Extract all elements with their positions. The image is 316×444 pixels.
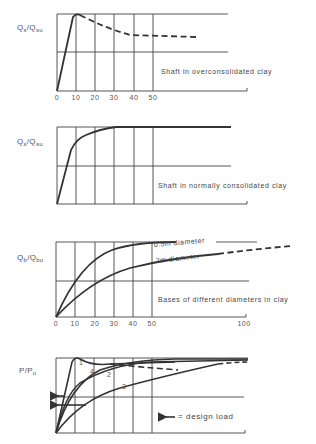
curve-number-4: 4	[90, 368, 94, 375]
panel-1-curve	[57, 14, 196, 91]
panel-1-ylabel: Qs/Qsu	[17, 23, 43, 33]
x-tick: 0	[54, 320, 58, 327]
diagram-canvas	[0, 0, 316, 444]
curve-0-5m-diameter	[56, 242, 176, 317]
panel-3-grid	[56, 242, 257, 317]
x-tick: 40	[130, 94, 139, 101]
panel-3-caption: Bases of different diameters in clay	[158, 296, 288, 303]
panel-2-ylabel: Qs/Qsu	[17, 137, 43, 147]
curve-number-2: 2	[107, 371, 111, 378]
x-tick: 20	[91, 94, 100, 101]
panel-2-curve	[57, 127, 231, 204]
x-tick: 10	[72, 94, 81, 101]
curve-number-3: 3	[122, 383, 126, 390]
x-tick: 50	[148, 320, 157, 327]
curve-number-1: 1	[79, 359, 83, 366]
x-tick: 50	[149, 94, 158, 101]
curve-1	[56, 358, 175, 433]
curve-2m-diameter-extrapolated	[218, 246, 292, 254]
x-tick: 100	[237, 320, 250, 327]
panel-3-curves	[56, 242, 292, 317]
legend-design-load: = design load	[178, 412, 234, 421]
panel-4-ylabel: P/Pu	[19, 366, 36, 376]
x-tick: 0	[55, 94, 59, 101]
x-tick: 30	[110, 320, 119, 327]
panel-2-caption: Shaft in normally consolidated clay	[158, 182, 287, 189]
x-tick: 40	[129, 320, 138, 327]
panel-4-grid	[56, 358, 248, 433]
panel-1-grid	[57, 14, 247, 91]
curve-2m-diameter	[56, 254, 218, 317]
curve-3-dashed	[218, 362, 250, 364]
x-tick: 10	[71, 320, 80, 327]
panel-1-caption: Shaft in overconsolidated clay	[161, 68, 272, 75]
panel-4-curves	[56, 358, 250, 433]
x-tick: 30	[110, 94, 119, 101]
panel-3-ylabel: Qb/Qbu	[17, 253, 44, 263]
x-tick: 20	[91, 320, 100, 327]
panel-2-grid	[57, 127, 247, 204]
curve-3	[56, 364, 218, 433]
